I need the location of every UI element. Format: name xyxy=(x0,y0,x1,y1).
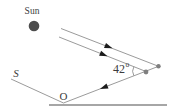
rainbow-ray-diagram: Sun 42o S O xyxy=(0,0,170,112)
angle-arc xyxy=(133,67,134,76)
raindrop-dot-right xyxy=(156,64,160,68)
angle-value: 42 xyxy=(113,62,125,76)
s-to-o-line xyxy=(11,79,64,103)
source-label: S xyxy=(13,67,19,79)
observer-label: O xyxy=(60,90,68,102)
angle-label: 42o xyxy=(113,60,130,77)
figure-canvas: Sun 42o S O xyxy=(0,0,170,112)
angle-degree-symbol: o xyxy=(126,60,130,69)
arrowhead-icon-upper-ray xyxy=(104,43,113,48)
raindrop-dot-left xyxy=(144,70,149,75)
sun-label: Sun xyxy=(25,6,40,16)
arrowhead-icon-lower-ray xyxy=(99,51,107,56)
arrowhead-icon-scattered-ray xyxy=(100,84,109,89)
sun-icon xyxy=(29,21,40,32)
